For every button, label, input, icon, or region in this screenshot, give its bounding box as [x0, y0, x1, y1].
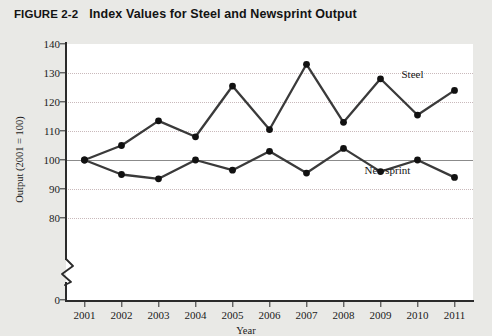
- chart-container: 08090100110120130140 Output (2001 = 100)…: [0, 26, 492, 333]
- data-point: [81, 157, 88, 164]
- series-label-steel: Steel: [402, 68, 424, 80]
- data-point: [229, 83, 236, 90]
- figure-number: FIGURE 2-2: [14, 8, 78, 20]
- data-point: [303, 61, 310, 68]
- data-point: [155, 117, 162, 124]
- data-point: [118, 171, 125, 178]
- data-point: [118, 142, 125, 149]
- data-point: [303, 170, 310, 177]
- data-point: [414, 157, 421, 164]
- figure-title: Index Values for Steel and Newsprint Out…: [89, 7, 357, 21]
- data-point: [229, 167, 236, 174]
- series-line-steel: [85, 64, 455, 160]
- data-point: [340, 119, 347, 126]
- data-point: [451, 87, 458, 94]
- data-point: [414, 112, 421, 119]
- data-point: [266, 126, 273, 133]
- series-label-newsprint: Newsprint: [365, 164, 411, 176]
- data-point: [192, 157, 199, 164]
- data-point: [266, 148, 273, 155]
- data-point: [192, 133, 199, 140]
- figure-caption: FIGURE 2-2Index Values for Steel and New…: [14, 7, 357, 21]
- data-point: [155, 175, 162, 182]
- data-point: [377, 75, 384, 82]
- data-point: [340, 145, 347, 152]
- data-point: [451, 174, 458, 181]
